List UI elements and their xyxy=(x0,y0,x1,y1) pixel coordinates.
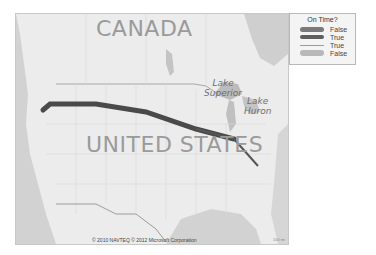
map-view[interactable]: CANADA UNITED STATES Lake Superior Lake … xyxy=(15,13,289,245)
lake-huron-line2: Huron xyxy=(244,106,271,116)
lake-huron-line1: Lake xyxy=(244,96,271,106)
legend-label: True xyxy=(330,42,344,49)
legend-label: False xyxy=(330,50,347,57)
legend-label: True xyxy=(330,34,344,41)
legend: On Time? False True True False xyxy=(289,13,356,65)
legend-item: False xyxy=(294,25,351,33)
map-scale: 100 mi xyxy=(273,237,285,242)
lake-superior-line2: Superior xyxy=(204,88,242,98)
legend-item: False xyxy=(294,49,351,57)
legend-swatch xyxy=(300,50,324,56)
map-basemap xyxy=(16,14,288,244)
canada-label: CANADA xyxy=(96,16,193,41)
legend-title: On Time? xyxy=(294,16,351,23)
lake-superior-label: Lake Superior xyxy=(204,78,242,98)
legend-swatch xyxy=(300,35,324,39)
legend-swatch xyxy=(300,27,324,32)
legend-swatch xyxy=(300,45,324,46)
legend-item: True xyxy=(294,41,351,49)
legend-item: True xyxy=(294,33,351,41)
legend-label: False xyxy=(330,26,347,33)
map-copyright: © 2010 NAVTEQ © 2012 Microsoft Corporati… xyxy=(92,237,197,243)
lake-superior-line1: Lake xyxy=(204,78,242,88)
united-states-label: UNITED STATES xyxy=(86,132,263,157)
lake-huron-label: Lake Huron xyxy=(244,96,271,116)
